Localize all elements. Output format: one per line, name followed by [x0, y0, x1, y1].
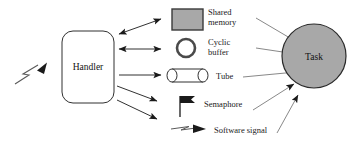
diagram-svg: Handler Shared memory Cyclic buffer	[0, 0, 354, 150]
shared-memory-label-line2: memory	[208, 17, 237, 27]
cyclic-buffer-label-line2: buffer	[208, 47, 229, 57]
tube-label-line1: Tube	[216, 71, 233, 81]
shared-memory-label-line1: Shared	[208, 7, 232, 17]
connector-handler-software-signal	[117, 100, 157, 119]
handler-label: Handler	[73, 62, 104, 72]
connector-software-signal-task	[277, 95, 298, 133]
software-signal-label-line1: Software signal	[214, 125, 268, 135]
connector-handler-semaphore	[117, 86, 157, 101]
flag-icon	[180, 96, 195, 117]
connector-handler-shared-memory	[119, 19, 161, 34]
lightning-arrow-icon	[171, 125, 206, 134]
cyclic-buffer-label-line1: Cyclic	[208, 37, 230, 47]
diagram-canvas: Handler Shared memory Cyclic buffer	[0, 0, 354, 150]
software-signal-item[interactable]: Software signal	[171, 125, 268, 136]
cylinder-icon	[167, 69, 208, 82]
task-node[interactable]: Task	[282, 24, 346, 88]
task-label: Task	[305, 52, 323, 62]
filled-rectangle-icon	[172, 9, 203, 30]
semaphore-item[interactable]: Semaphore	[180, 96, 242, 117]
ring-icon	[177, 39, 195, 57]
tube-item[interactable]: Tube	[167, 69, 233, 82]
semaphore-label-line1: Semaphore	[204, 99, 242, 109]
handler-node[interactable]: Handler	[62, 31, 114, 103]
cyclic-buffer-item[interactable]: Cyclic buffer	[177, 37, 230, 57]
connector-semaphore-task	[253, 84, 294, 110]
external-signal-lightning-arrow-icon	[15, 63, 47, 85]
shared-memory-item[interactable]: Shared memory	[172, 7, 237, 30]
